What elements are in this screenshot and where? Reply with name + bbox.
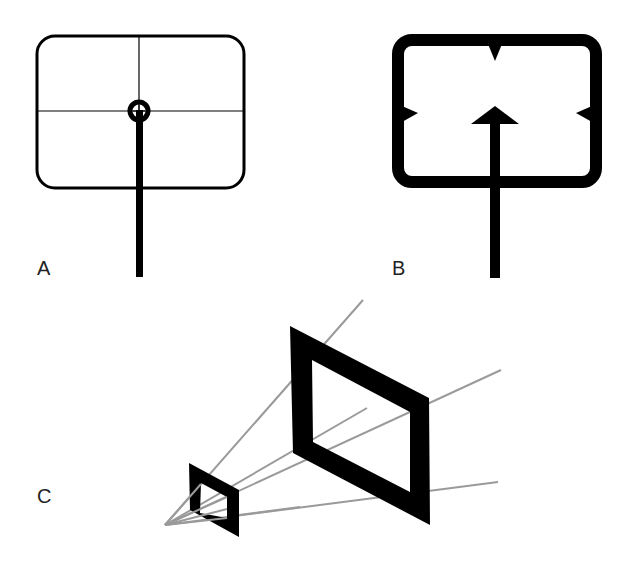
diagram-canvas (0, 0, 637, 577)
panel-label-b: B (392, 257, 405, 280)
panel-c-graphic (165, 300, 501, 537)
panel-b-graphic (398, 40, 596, 278)
panel-a-graphic (37, 36, 244, 277)
panel-label-c: C (37, 485, 51, 508)
panel-label-a: A (37, 257, 50, 280)
